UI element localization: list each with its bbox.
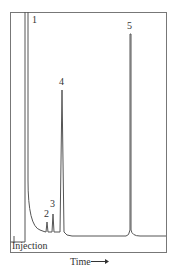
chromatogram: 1 2 3 4 5 Injection Time: [0, 0, 177, 272]
x-axis-label: Time: [70, 256, 91, 267]
injection-trace: [11, 12, 26, 242]
peak-label-2: 2: [44, 208, 49, 219]
peak-label-3: 3: [50, 198, 55, 209]
peak-label-1: 1: [32, 14, 37, 25]
plot-frame: [11, 13, 167, 253]
injection-label: Injection: [12, 240, 48, 251]
arrow-head-icon: [105, 259, 109, 264]
chromatogram-trace: [28, 12, 166, 236]
peak-label-5: 5: [127, 20, 132, 31]
peak-label-4: 4: [59, 76, 64, 87]
